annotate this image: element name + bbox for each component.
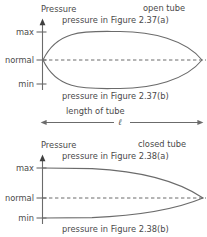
pressure-tube-figure: Pressure open tube max normal min pressu…: [0, 0, 207, 237]
bottom-tick-label-normal: normal: [0, 194, 34, 202]
bottom-tick-label-min: min: [10, 214, 34, 222]
length-symbol-label: ℓ: [118, 118, 122, 127]
top-panel-graphics: [37, 19, 207, 91]
bottom-pressure-axis-label: Pressure: [41, 141, 76, 149]
closed-tube-label: closed tube: [138, 140, 186, 148]
top-curve-b: [43, 60, 202, 89]
bottom-curve-b: [43, 198, 203, 218]
top-axis-arrow-icon: [40, 19, 46, 26]
bottom-curve-b-label: pressure in Figure 2.38(b): [62, 225, 169, 233]
length-of-tube-caption: length of tube: [66, 107, 125, 115]
bottom-axis-arrow-icon: [40, 155, 46, 162]
top-tick-label-max: max: [8, 28, 34, 36]
bottom-tick-label-max: max: [8, 164, 34, 172]
top-curve-b-label: pressure in Figure 2.37(b): [62, 92, 169, 100]
top-tick-label-normal: normal: [0, 56, 34, 64]
top-pressure-axis-label: Pressure: [41, 5, 76, 13]
top-curve-a: [43, 31, 202, 60]
bottom-curve-a-label: pressure in Figure 2.38(a): [62, 152, 169, 160]
bottom-curve-a: [43, 168, 203, 198]
top-tick-label-min: min: [10, 80, 34, 88]
bottom-panel-graphics: [37, 155, 207, 225]
open-tube-label: open tube: [143, 4, 185, 12]
top-curve-a-label: pressure in Figure 2.37(a): [62, 16, 169, 24]
